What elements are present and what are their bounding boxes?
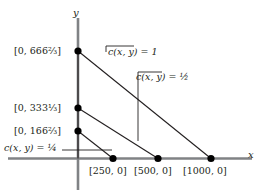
level-curve-quarter bbox=[78, 131, 113, 159]
intercept-dot-x-250 bbox=[109, 155, 116, 162]
y-intercept-label-333: [0, 333⅓] bbox=[14, 103, 61, 113]
level-curve-one bbox=[78, 51, 211, 159]
intercept-dot-y-166 bbox=[74, 127, 81, 134]
intercept-dot-y-666 bbox=[74, 47, 81, 54]
y-intercept-label-166: [0, 166⅔] bbox=[14, 126, 61, 136]
cost-function-level-curves-figure: [0, 666⅔] [0, 333⅓] [0, 166⅔] c(x, y) = … bbox=[0, 0, 271, 194]
leader-line-level-half bbox=[138, 72, 162, 141]
level-curve-label-quarter: c(x, y) = ¼ bbox=[4, 143, 57, 153]
x-intercept-label-500: [500, 0] bbox=[134, 166, 172, 176]
level-curve-label-half: c(x, y) = ½ bbox=[136, 72, 189, 82]
intercept-dot-y-333 bbox=[74, 104, 81, 111]
y-intercept-label-666: [0, 666⅔] bbox=[14, 46, 61, 56]
y-axis-label: y bbox=[73, 8, 79, 18]
level-curve-label-one: c(x, y) = 1 bbox=[108, 47, 158, 57]
x-intercept-label-250: [250, 0] bbox=[89, 166, 127, 176]
intercept-dot-x-500 bbox=[154, 155, 161, 162]
x-intercept-label-1000: [1000, 0] bbox=[183, 166, 227, 176]
level-curve-half bbox=[78, 108, 158, 159]
intercept-dot-x-1000 bbox=[207, 155, 214, 162]
x-axis-label: x bbox=[248, 150, 254, 160]
